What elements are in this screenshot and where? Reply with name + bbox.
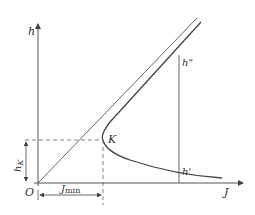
svg-text:hK: hK xyxy=(12,159,25,172)
origin-label: O xyxy=(25,186,34,199)
hK-label: hK xyxy=(12,159,25,172)
diagonal-line xyxy=(38,18,197,183)
x-axis-label: J xyxy=(222,186,229,199)
h-j-diagram: h J O K h" h' hK Jmin xyxy=(0,0,255,215)
saturation-curve xyxy=(102,22,222,178)
K-label: K xyxy=(107,133,117,146)
Jmin-label: Jmin xyxy=(59,183,80,195)
h-double-prime-label: h" xyxy=(182,57,193,68)
h-prime-label: h' xyxy=(182,166,191,177)
y-axis-label: h xyxy=(28,25,35,38)
